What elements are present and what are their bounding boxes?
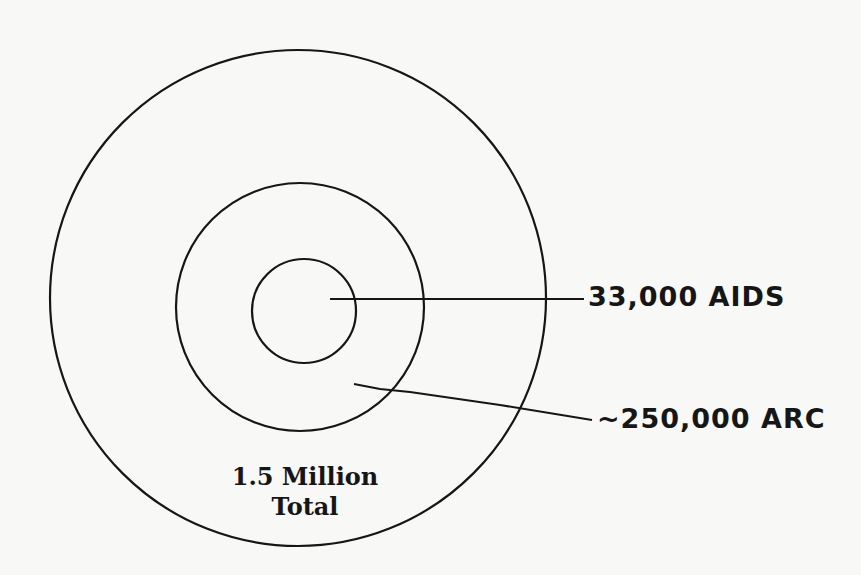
middle-circle-arc <box>176 183 424 431</box>
inner-circle-aids <box>252 259 356 363</box>
arc-leader-line <box>354 384 592 420</box>
aids-label: 33,000 AIDS <box>588 281 785 312</box>
total-label-line2: Total <box>205 492 405 522</box>
total-label-line1: 1.5 Million <box>205 462 405 492</box>
arc-label: ~250,000 ARC <box>597 403 826 434</box>
diagram-page: 33,000 AIDS ~250,000 ARC 1.5 Million Tot… <box>0 0 861 575</box>
total-label: 1.5 Million Total <box>205 462 405 522</box>
